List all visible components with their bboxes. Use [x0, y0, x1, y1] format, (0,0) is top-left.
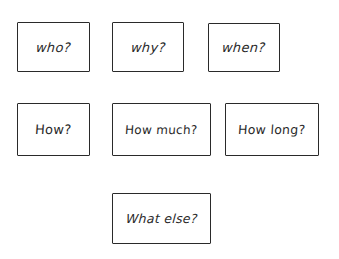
card-when: when? [208, 23, 280, 72]
card-what-else: What else? [112, 193, 211, 244]
card-who-label: who? [36, 40, 72, 55]
card-why: why? [112, 22, 184, 72]
card-who: who? [17, 22, 90, 72]
card-what-else-label: What else? [125, 211, 198, 226]
card-how-label: How? [35, 122, 73, 137]
card-how: How? [17, 103, 90, 156]
card-how-long: How long? [225, 103, 319, 156]
card-how-much-label: How much? [125, 123, 199, 137]
card-how-long-label: How long? [238, 122, 307, 137]
card-when-label: when? [222, 40, 267, 55]
card-why-label: why? [130, 40, 166, 55]
card-how-much: How much? [112, 103, 211, 156]
